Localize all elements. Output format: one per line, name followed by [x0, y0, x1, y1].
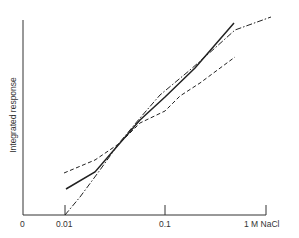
x-tick-label-0: 0	[20, 219, 25, 229]
axes	[23, 20, 266, 215]
x-tick-label-0.01: 0.01	[56, 219, 73, 229]
x-tick-label-0.1: 0.1	[159, 219, 171, 229]
y-axis-label: Integrated response	[8, 60, 18, 170]
x-tick-label-1-m-nacl: 1 M NaCl	[244, 219, 279, 229]
series-dashed	[64, 57, 235, 173]
plot-lines	[64, 17, 271, 215]
series-dash-dot	[65, 17, 271, 215]
chart-canvas	[0, 0, 299, 238]
